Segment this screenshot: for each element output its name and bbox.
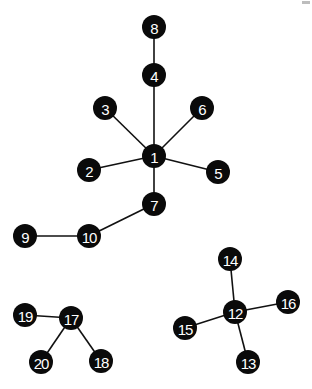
node-19: 19	[13, 303, 37, 327]
node-label: 20	[34, 355, 49, 372]
node-18: 18	[89, 349, 113, 373]
node-label: 3	[101, 101, 109, 118]
node-9: 9	[13, 224, 37, 248]
node-layer: 12345678910121314151617181920	[13, 15, 300, 374]
node-7: 7	[142, 192, 166, 216]
node-label: 18	[94, 354, 109, 371]
node-label: 13	[241, 355, 256, 372]
node-label: 1	[150, 149, 158, 166]
node-6: 6	[190, 96, 214, 120]
node-label: 9	[21, 229, 29, 246]
node-label: 5	[214, 165, 222, 182]
node-14: 14	[218, 247, 242, 271]
node-20: 20	[29, 350, 53, 374]
node-label: 10	[82, 229, 97, 246]
node-label: 8	[150, 20, 158, 37]
node-3: 3	[93, 96, 117, 120]
node-label: 19	[18, 308, 33, 325]
node-16: 16	[276, 290, 300, 314]
node-10: 10	[77, 224, 101, 248]
node-label: 7	[150, 197, 158, 214]
node-label: 4	[150, 68, 158, 85]
node-5: 5	[206, 160, 230, 184]
node-label: 16	[281, 295, 296, 312]
node-12: 12	[223, 300, 247, 324]
node-label: 14	[223, 252, 238, 269]
network-graph: 12345678910121314151617181920	[0, 0, 312, 389]
node-8: 8	[142, 15, 166, 39]
node-label: 12	[228, 305, 243, 322]
corner-artifact	[302, 1, 310, 4]
node-label: 6	[198, 101, 206, 118]
node-17: 17	[59, 306, 83, 330]
node-label: 2	[85, 163, 93, 180]
node-13: 13	[236, 350, 260, 374]
node-1: 1	[142, 144, 166, 168]
node-4: 4	[142, 63, 166, 87]
node-2: 2	[77, 158, 101, 182]
node-label: 17	[64, 311, 79, 328]
node-15: 15	[173, 316, 197, 340]
node-label: 15	[178, 321, 193, 338]
